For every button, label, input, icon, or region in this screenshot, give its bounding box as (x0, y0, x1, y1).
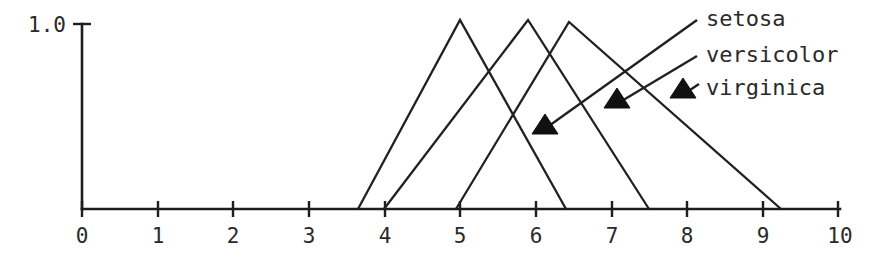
chart-figure: 1.0 0 1 2 3 4 5 6 7 8 9 10 setosa (0, 0, 878, 268)
annotation-virginica: virginica (670, 75, 825, 100)
x-tick-label-2: 2 (227, 224, 240, 248)
x-tick-label-0: 0 (76, 224, 89, 248)
x-tick-label-5: 5 (454, 224, 467, 248)
y-axis-label-1.0: 1.0 (28, 13, 66, 37)
x-tick-label-1: 1 (152, 224, 165, 248)
leader-line-setosa (546, 20, 697, 128)
x-tick-label-4: 4 (379, 224, 392, 248)
x-tick-label-10: 10 (827, 224, 852, 248)
x-tick-label-6: 6 (530, 224, 543, 248)
x-tick-label-9: 9 (757, 224, 770, 248)
x-tick-label-3: 3 (303, 224, 316, 248)
x-tick-label-8: 8 (681, 224, 694, 248)
series-line-versicolor (384, 20, 649, 209)
annotation-label-setosa: setosa (706, 6, 785, 31)
arrowhead-setosa-icon (532, 114, 558, 134)
x-tick-label-7: 7 (606, 224, 619, 248)
annotation-label-versicolor: versicolor (706, 42, 838, 67)
membership-function-chart: 1.0 0 1 2 3 4 5 6 7 8 9 10 setosa (0, 0, 878, 268)
series-line-setosa (358, 20, 566, 209)
annotation-setosa: setosa (532, 6, 785, 134)
annotation-label-virginica: virginica (706, 75, 825, 100)
x-axis-tick-labels: 0 1 2 3 4 5 6 7 8 9 10 (76, 224, 853, 248)
